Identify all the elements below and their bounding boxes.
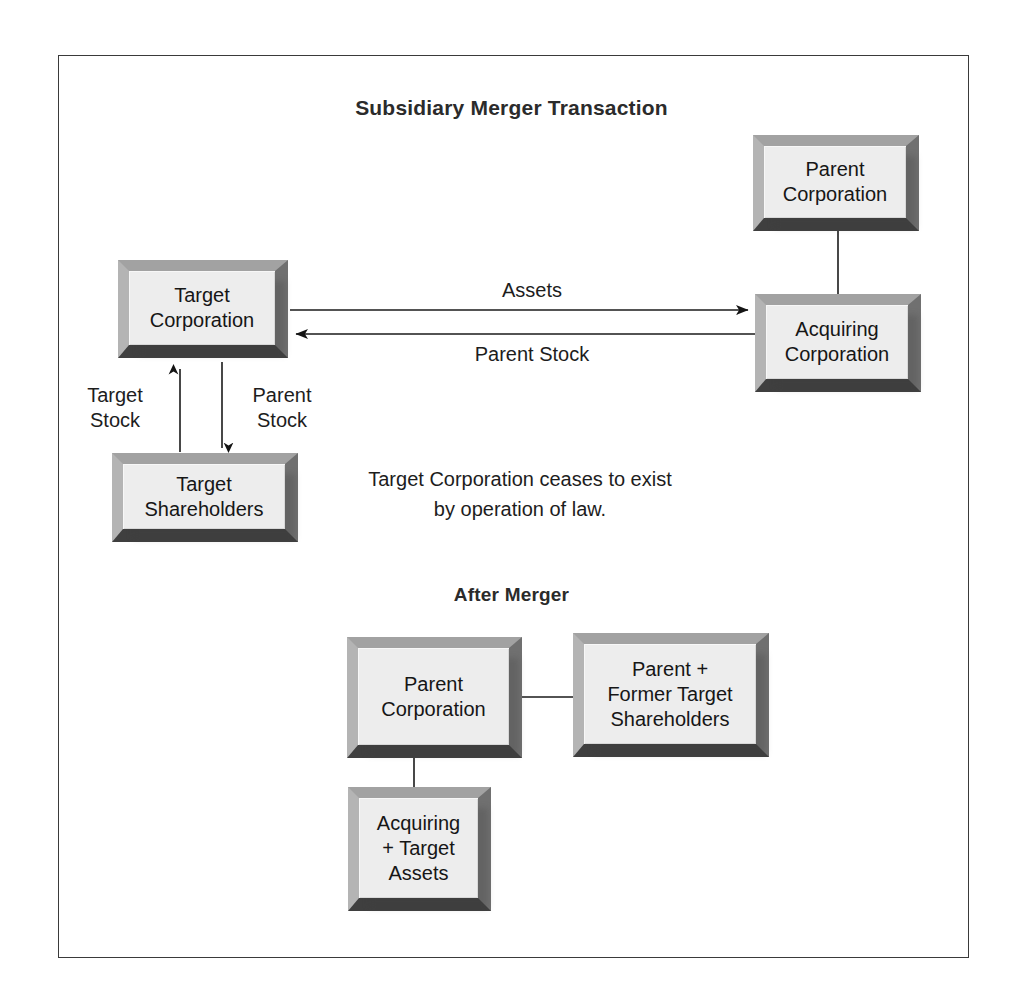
merger-note-text: Target Corporation ceases to exist by op… xyxy=(360,464,680,524)
box-after-parent-corporation-label: Parent Corporation xyxy=(358,648,509,745)
box-after-parent-former-target-shareholders[interactable]: Parent + Former Target Shareholders xyxy=(573,633,769,757)
page-title: Subsidiary Merger Transaction xyxy=(0,96,1023,120)
box-target-corporation[interactable]: Target Corporation xyxy=(118,260,288,358)
box-parent-corporation-label: Parent Corporation xyxy=(764,146,906,218)
diagram-canvas: Subsidiary Merger Transaction After Merg… xyxy=(0,0,1023,1005)
box-after-acquiring-target-assets[interactable]: Acquiring + Target Assets xyxy=(348,787,491,911)
box-target-corporation-label: Target Corporation xyxy=(129,271,275,345)
box-acquiring-corporation-label: Acquiring Corporation xyxy=(766,305,908,379)
flow-label-parent-stock: Parent Stock xyxy=(437,342,627,367)
after-merger-title: After Merger xyxy=(0,584,1023,606)
flow-label-target-stock: Target Stock xyxy=(60,383,170,433)
box-after-shareholders-label: Parent + Former Target Shareholders xyxy=(584,644,756,744)
box-after-assets-label: Acquiring + Target Assets xyxy=(359,798,478,898)
box-acquiring-corporation[interactable]: Acquiring Corporation xyxy=(755,294,921,392)
box-target-shareholders-label: Target Shareholders xyxy=(123,464,285,529)
box-after-parent-corporation[interactable]: Parent Corporation xyxy=(347,637,522,758)
flow-label-parent-stock-vertical: Parent Stock xyxy=(227,383,337,433)
box-parent-corporation[interactable]: Parent Corporation xyxy=(753,135,919,231)
box-target-shareholders[interactable]: Target Shareholders xyxy=(112,453,298,542)
flow-label-assets: Assets xyxy=(452,278,612,303)
